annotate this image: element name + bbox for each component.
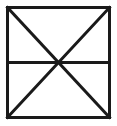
figure-container xyxy=(0,0,117,126)
square-diagonals-diagram xyxy=(0,0,117,126)
